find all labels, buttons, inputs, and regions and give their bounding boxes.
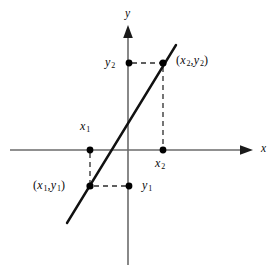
x2-variable: x <box>155 156 161 170</box>
y2-subscript: 2 <box>111 61 116 70</box>
y-axis-label: y <box>125 8 130 20</box>
point-x2-y2-label: (x2,y2) <box>176 54 208 68</box>
point-x1-y1 <box>86 182 93 189</box>
x1-variable: x <box>80 119 86 133</box>
x-axis-arrowhead <box>240 145 253 155</box>
point1-close-paren: ) <box>61 178 65 192</box>
coordinate-plane-figure: y x y2 x1 x2 y1 (x2,y2) (x1,y1) <box>0 0 277 277</box>
point-x1-on-axis <box>87 147 94 154</box>
x2-subscript: 2 <box>161 162 166 171</box>
y-axis-arrowhead <box>123 25 133 38</box>
x1-subscript: 1 <box>86 125 91 134</box>
point-y2-on-axis <box>126 60 133 67</box>
y1-label: y1 <box>142 179 152 193</box>
x1-label: x1 <box>80 120 90 134</box>
figure-canvas <box>0 0 277 277</box>
y2-variable: y <box>105 55 111 69</box>
x2-label: x2 <box>155 157 165 171</box>
y2-label: y2 <box>105 56 115 70</box>
point-x2-y2 <box>159 59 166 66</box>
point-x2-on-axis <box>160 147 167 154</box>
point-x1-y1-label: (x1,y1) <box>33 179 65 193</box>
y1-variable: y <box>142 178 148 192</box>
point-y1-on-axis <box>126 183 133 190</box>
point2-close-paren: ) <box>204 53 208 67</box>
x-axis-label: x <box>261 143 266 155</box>
y1-subscript: 1 <box>148 184 153 193</box>
